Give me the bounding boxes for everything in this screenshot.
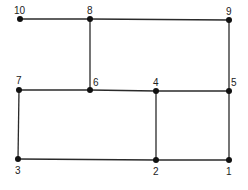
node-1 (226, 157, 232, 163)
node-2 (153, 157, 159, 163)
edge-8-9 (90, 19, 229, 20)
node-label-6: 6 (93, 77, 99, 88)
node-10 (17, 16, 23, 22)
edge-6-4 (90, 90, 156, 91)
node-label-8: 8 (87, 5, 93, 16)
node-label-1: 1 (226, 166, 232, 177)
graph-diagram: 12345678910 (0, 0, 248, 190)
edge-7-3 (18, 90, 19, 159)
node-5 (226, 88, 232, 94)
node-label-10: 10 (14, 5, 26, 16)
node-label-5: 5 (231, 77, 237, 88)
node-7 (16, 87, 22, 93)
node-label-9: 9 (226, 6, 232, 17)
edge-3-2 (18, 159, 156, 160)
node-label-2: 2 (153, 166, 159, 177)
node-label-4: 4 (153, 77, 159, 88)
node-4 (153, 88, 159, 94)
node-label-3: 3 (15, 165, 21, 176)
node-3 (15, 156, 21, 162)
edges (18, 19, 229, 160)
node-8 (87, 16, 93, 22)
node-label-7: 7 (16, 75, 22, 86)
node-9 (226, 17, 232, 23)
